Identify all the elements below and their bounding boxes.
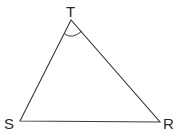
triangle-diagram: T S R	[0, 0, 180, 136]
vertex-label-r: R	[163, 115, 174, 132]
vertex-label-t: T	[66, 3, 75, 20]
triangle-str	[20, 20, 160, 122]
vertex-label-s: S	[4, 115, 14, 132]
angle-arc-t	[64, 31, 82, 36]
